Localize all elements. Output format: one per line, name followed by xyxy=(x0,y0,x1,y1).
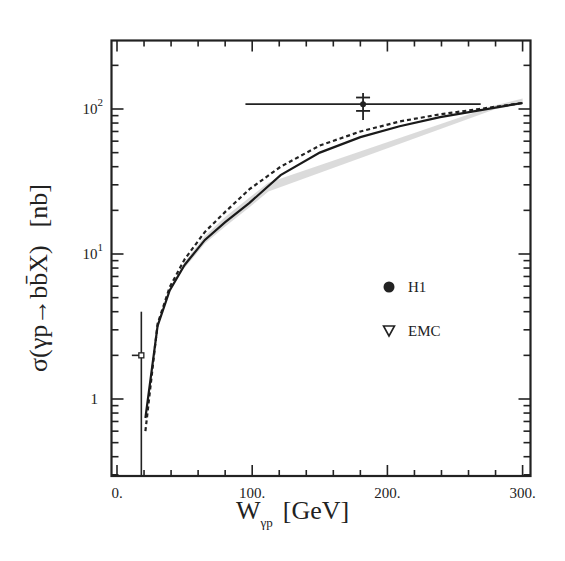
h1-marker-icon xyxy=(360,101,366,107)
y-tick-label: 1 xyxy=(91,391,99,407)
x-axis-title: Wγp[GeV] xyxy=(236,496,349,530)
chart: 0.100.200.300.1101102 H1 EMC Wγp[GeV] σ(… xyxy=(0,0,565,561)
emc-marker-icon xyxy=(139,353,144,358)
x-tick-label: 300. xyxy=(509,485,535,501)
x-tick-label: 0. xyxy=(111,485,122,501)
legend-h1-label: H1 xyxy=(408,279,426,295)
x-tick-label: 200. xyxy=(374,485,400,501)
legend-emc-label: EMC xyxy=(408,323,441,339)
legend-h1-marker-icon xyxy=(384,282,395,293)
y-axis-title: σ(γp→bb̄X)[nb] xyxy=(24,184,53,372)
